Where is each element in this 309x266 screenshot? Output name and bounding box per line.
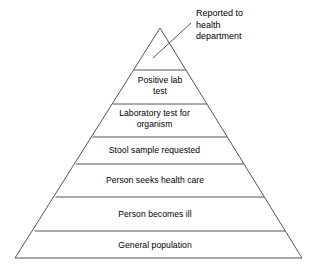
surveillance-pyramid-diagram: Reported to health department Positive l… (0, 0, 309, 266)
pyramid-outline (15, 28, 302, 258)
callout-label-reported-to-health-department: Reported to health department (196, 8, 306, 43)
